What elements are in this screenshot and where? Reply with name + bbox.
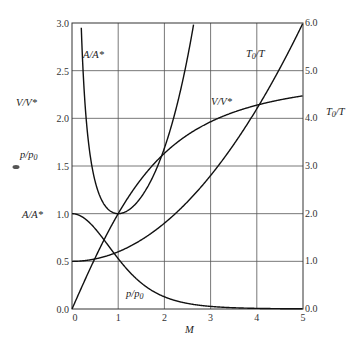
left-tick-label: 1.0 — [57, 209, 70, 220]
left-tick-label: 3.0 — [57, 18, 70, 29]
x-tick-label: 2 — [162, 312, 167, 323]
annotation-pp: p/p0 — [125, 288, 143, 301]
left-tick-label: 2.0 — [57, 113, 70, 124]
right-tick-label: 6.0 — [305, 17, 318, 28]
right-axis-label-t0t: T0/T — [326, 106, 346, 119]
x-axis-label: M — [184, 324, 195, 335]
annotation-t0t: T0/T — [246, 48, 266, 61]
left-axis-label-pp: p/p0 — [19, 149, 37, 162]
x-tick-label: 3 — [208, 312, 213, 323]
x-tick-label: 4 — [254, 312, 259, 323]
x-tick-label: 1 — [116, 312, 121, 323]
grid — [72, 23, 303, 309]
right-axis-ticks: 0.01.02.03.04.05.06.0 — [305, 17, 318, 314]
x-tick-label: 0 — [73, 312, 78, 323]
right-tick-label: 1.0 — [305, 255, 318, 266]
annotation-vv: V/V* — [211, 96, 233, 107]
left-axis-label-vv: V/V* — [16, 97, 38, 108]
isentropic-flow-chart: 0.00.51.01.52.02.53.0 0.01.02.03.04.05.0… — [0, 0, 361, 344]
left-tick-label: 0.5 — [57, 256, 70, 267]
left-axis-ticks: 0.00.51.01.52.02.53.0 — [57, 18, 70, 315]
left-tick-label: 2.5 — [57, 66, 70, 77]
left-axis-label-aa: A/A* — [21, 209, 44, 220]
left-tick-label: 1.5 — [57, 161, 70, 172]
left-tick-label: 0.0 — [57, 304, 70, 315]
x-tick-label: 5 — [301, 312, 306, 323]
right-tick-label: 2.0 — [305, 208, 318, 219]
right-tick-label: 5.0 — [305, 65, 318, 76]
x-axis-ticks: 012345 — [73, 312, 306, 323]
ink-blot — [13, 165, 20, 169]
right-tick-label: 4.0 — [305, 112, 318, 123]
annotation-aa: A/A* — [82, 49, 105, 60]
right-tick-label: 0.0 — [305, 303, 318, 314]
right-tick-label: 3.0 — [305, 160, 318, 171]
